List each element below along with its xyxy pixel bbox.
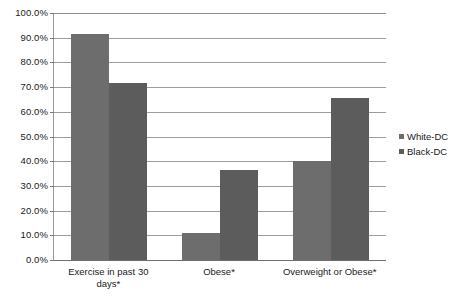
legend-label: White-DC xyxy=(407,132,448,142)
y-axis-tick-mark xyxy=(50,186,54,187)
y-axis-tick-label: 80.0% xyxy=(0,57,48,67)
y-axis-tick-mark xyxy=(50,137,54,138)
y-axis-tick-mark xyxy=(50,235,54,236)
y-axis-tick-mark xyxy=(50,161,54,162)
y-axis-tick-label: 10.0% xyxy=(0,230,48,240)
legend-swatch-icon xyxy=(399,149,404,154)
y-axis-tick-mark xyxy=(50,13,54,14)
y-axis-tick-label: 50.0% xyxy=(0,132,48,142)
bar xyxy=(182,233,220,260)
y-axis-tick-mark xyxy=(50,112,54,113)
bar xyxy=(293,161,331,260)
bar xyxy=(109,83,147,260)
x-axis-category-label: Exercise in past 30 days* xyxy=(56,266,160,289)
y-axis-tick-mark xyxy=(50,62,54,63)
x-axis-category-label: Obese* xyxy=(167,266,271,278)
y-axis-tick-label: 30.0% xyxy=(0,181,48,191)
gridline xyxy=(54,13,386,14)
y-axis-tick-label: 90.0% xyxy=(0,33,48,43)
y-axis-tick-label: 70.0% xyxy=(0,82,48,92)
legend-swatch-icon xyxy=(399,134,404,139)
x-axis-category-label: Overweight or Obese* xyxy=(278,266,382,278)
y-axis-tick-mark xyxy=(50,260,54,261)
y-axis-tick-mark xyxy=(50,211,54,212)
y-axis-tick-label: 0.0% xyxy=(0,255,48,265)
bar xyxy=(220,170,258,260)
y-axis-tick-mark xyxy=(50,38,54,39)
y-axis-labels: 100.0%90.0%80.0%70.0%60.0%50.0%40.0%30.0… xyxy=(0,0,48,306)
y-axis-tick-mark xyxy=(50,87,54,88)
plot-area xyxy=(53,13,386,261)
legend-item: Black-DC xyxy=(399,144,461,159)
y-axis-tick-label: 60.0% xyxy=(0,107,48,117)
legend-item: White-DC xyxy=(399,129,461,144)
bar xyxy=(71,34,109,260)
y-axis-tick-label: 20.0% xyxy=(0,206,48,216)
y-axis-tick-label: 100.0% xyxy=(0,8,48,18)
legend-label: Black-DC xyxy=(407,147,447,157)
chart-legend: White-DCBlack-DC xyxy=(399,129,461,159)
y-axis-tick-label: 40.0% xyxy=(0,156,48,166)
bar xyxy=(331,98,369,260)
bar-chart: 100.0%90.0%80.0%70.0%60.0%50.0%40.0%30.0… xyxy=(0,0,461,306)
